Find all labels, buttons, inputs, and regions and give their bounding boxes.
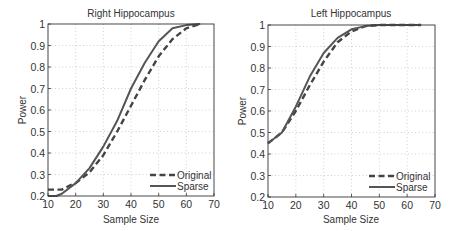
x-tick-label: 40 [346, 199, 358, 211]
legend-sparse-label: Sparse [177, 181, 209, 192]
legend: Original Sparse [150, 170, 211, 192]
right-hippocampus-panel: Right Hippocampus 102030405060700.20.30.… [17, 8, 220, 225]
y-tick-label: 0.3 [250, 170, 265, 182]
x-tick-label: 30 [97, 198, 109, 210]
x-tick-label: 30 [318, 199, 330, 211]
legend-original-label: Original [177, 170, 211, 181]
y-tick-label: 0.6 [30, 104, 45, 116]
series-original-line [268, 25, 421, 143]
y-tick-label: 0.7 [250, 84, 265, 96]
legend-sparse-label: Sparse [396, 182, 428, 193]
x-tick-label: 70 [429, 199, 441, 211]
x-tick-label: 50 [153, 198, 165, 210]
series-sparse-line [268, 25, 421, 143]
x-axis-label: Sample Size [103, 214, 160, 225]
x-tick-label: 60 [180, 198, 192, 210]
y-tick-label: 1 [259, 19, 265, 31]
figure: Right Hippocampus 102030405060700.20.30.… [0, 0, 459, 231]
y-tick-label: 0.2 [250, 191, 265, 203]
y-tick-label: 0.8 [250, 62, 265, 74]
y-tick-label: 0.8 [30, 61, 45, 73]
y-tick-label: 0.4 [30, 147, 45, 159]
y-tick-label: 0.6 [250, 105, 265, 117]
x-tick-label: 20 [70, 198, 82, 210]
y-tick-label: 1 [39, 18, 45, 30]
data-lines [268, 25, 421, 143]
y-tick-label: 0.3 [30, 169, 45, 181]
chart-title: Right Hippocampus [87, 8, 174, 19]
y-tick-label: 0.9 [30, 40, 45, 52]
y-tick-label: 0.7 [30, 83, 45, 95]
x-tick-label: 20 [290, 199, 302, 211]
x-tick-label: 50 [373, 199, 385, 211]
y-tick-label: 0.2 [30, 190, 45, 202]
x-tick-label: 60 [401, 199, 413, 211]
x-tick-label: 70 [208, 198, 220, 210]
y-axis-label: Power [237, 96, 248, 125]
y-tick-label: 0.4 [250, 148, 265, 160]
y-axis-label: Power [17, 95, 28, 124]
legend: Original Sparse [369, 171, 430, 193]
y-tick-label: 0.9 [250, 41, 265, 53]
legend-original-label: Original [396, 171, 430, 182]
y-tick-label: 0.5 [250, 127, 265, 139]
y-tick-label: 0.5 [30, 126, 45, 138]
x-axis-label: Sample Size [323, 214, 380, 225]
x-tick-label: 40 [125, 198, 137, 210]
left-hippocampus-panel: Left Hippocampus 102030405060700.20.30.4… [237, 8, 441, 225]
chart-title: Left Hippocampus [311, 8, 392, 19]
